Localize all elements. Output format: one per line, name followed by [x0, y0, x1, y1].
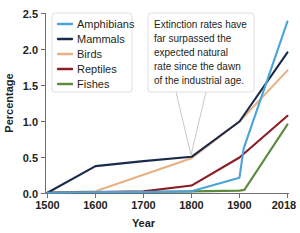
y-tick-label-2-5: 2.5 — [23, 8, 38, 20]
x-tick-label-2018: 2018 — [272, 199, 296, 211]
callout-line-2: far surpassed the — [154, 33, 232, 44]
y-tick-marks — [41, 14, 46, 194]
legend-label-reptiles: Reptiles — [77, 63, 117, 75]
extinction-rates-line-chart: 2.5 2.0 1.5 1.0 0.5 0.0 1500 1600 1700 1… — [0, 0, 300, 233]
y-tick-label-0-0: 0.0 — [23, 188, 38, 200]
x-tick-label-1900: 1900 — [227, 199, 251, 211]
y-tick-label-2-0: 2.0 — [23, 44, 38, 56]
callout-line-4: rate since the dawn — [154, 61, 241, 72]
callout-line-1: Extinction rates have — [154, 19, 247, 30]
y-tick-label-1-5: 1.5 — [23, 80, 38, 92]
legend-label-mammals: Mammals — [77, 33, 125, 45]
callout-line-3: expected natural — [154, 47, 228, 58]
legend-label-fishes: Fishes — [77, 78, 110, 90]
y-tick-label-1-0: 1.0 — [23, 116, 38, 128]
x-axis-title: Year — [132, 217, 156, 229]
callout-line-5: of the industrial age. — [154, 75, 244, 86]
y-tick-label-0-5: 0.5 — [23, 152, 38, 164]
x-tick-label-1600: 1600 — [83, 199, 107, 211]
x-tick-label-1800: 1800 — [179, 199, 203, 211]
callout-pointer — [176, 92, 206, 155]
chart-svg: 2.5 2.0 1.5 1.0 0.5 0.0 1500 1600 1700 1… — [0, 0, 300, 233]
y-axis-title: Percentage — [3, 73, 15, 132]
legend-label-amphibians: Amphibians — [77, 18, 135, 30]
x-tick-label-1700: 1700 — [131, 199, 155, 211]
x-tick-label-1500: 1500 — [35, 199, 59, 211]
x-tick-marks — [48, 194, 288, 199]
legend-label-birds: Birds — [77, 48, 103, 60]
